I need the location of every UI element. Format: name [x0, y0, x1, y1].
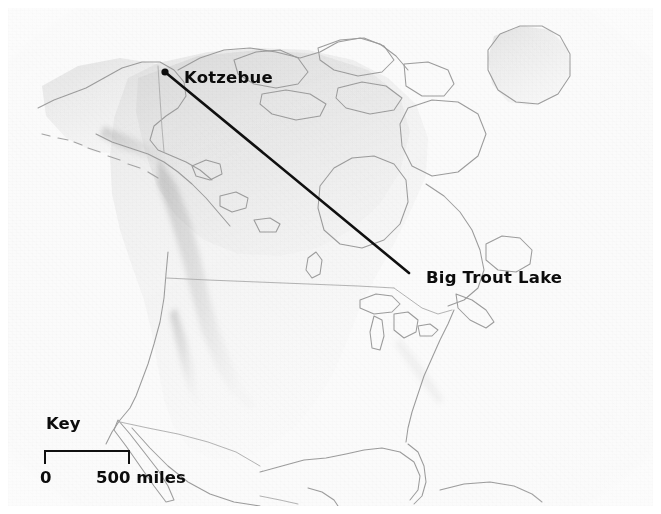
scale-min-label: 0: [40, 470, 51, 487]
map-screenshot: Kotzebue Big Trout Lake Key 0 500 miles: [0, 0, 661, 514]
place-label-big-trout-lake: Big Trout Lake: [426, 270, 562, 287]
map-canvas[interactable]: Kotzebue Big Trout Lake Key 0 500 miles: [8, 8, 653, 506]
place-label-kotzebue: Kotzebue: [184, 70, 273, 87]
scale-max-label: 500 miles: [96, 470, 186, 487]
key-title: Key: [46, 416, 80, 433]
kotzebue-city-dot[interactable]: [161, 68, 168, 75]
map-key: Key 0 500 miles: [44, 416, 204, 502]
scale-bar-graphic: [44, 450, 130, 464]
